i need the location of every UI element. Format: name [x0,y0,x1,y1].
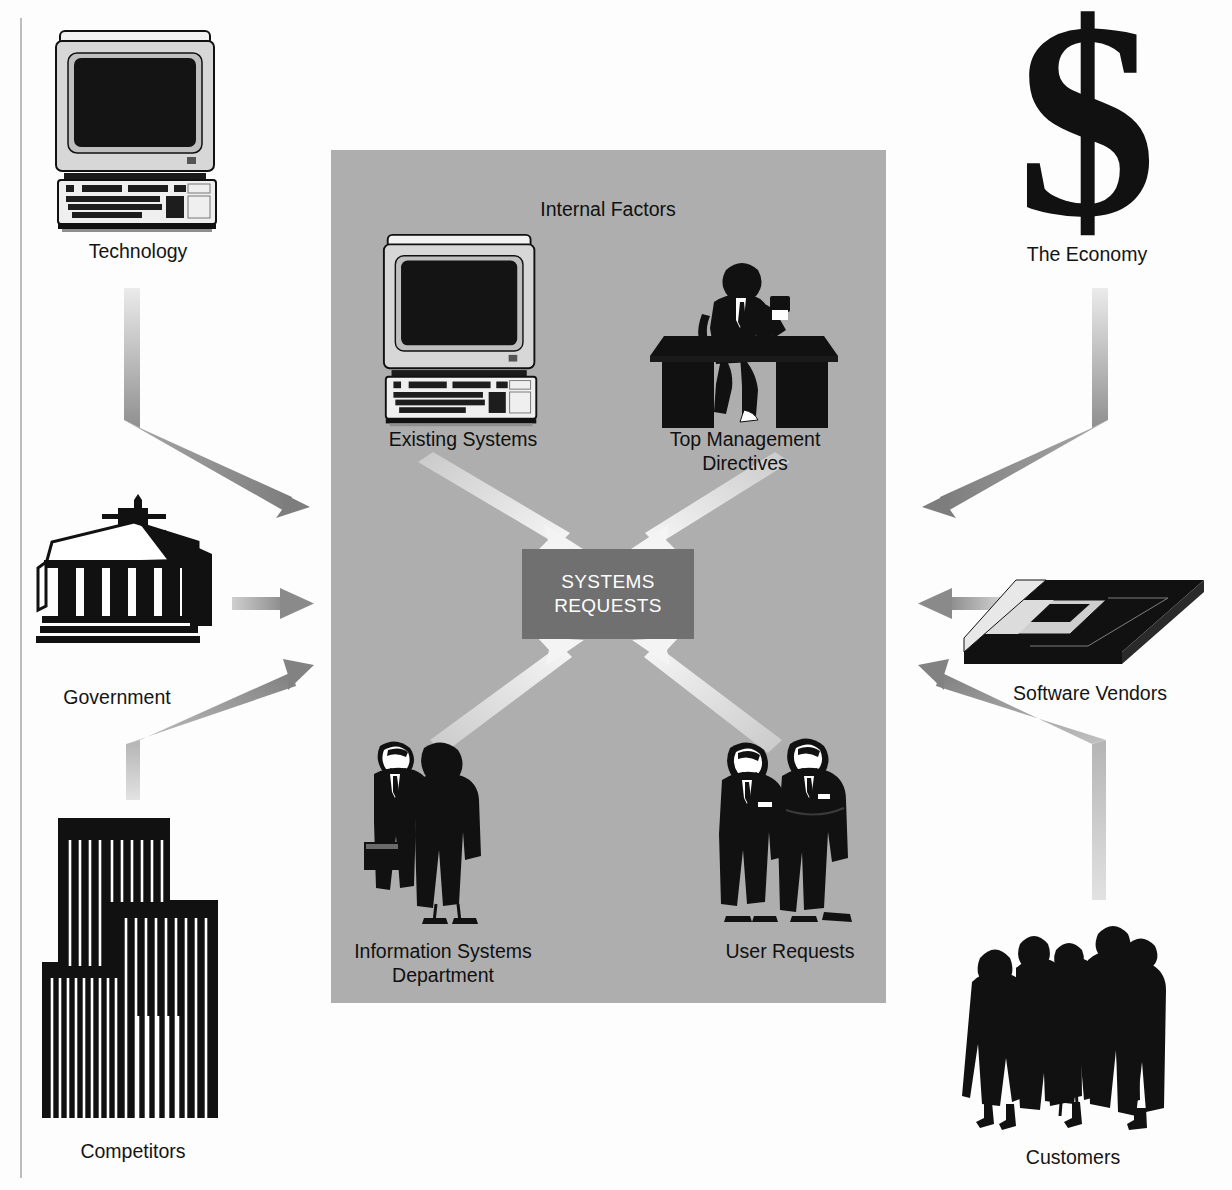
arrow-technology [124,288,310,518]
label-top-management-directives: Top Management Directives [640,428,850,476]
label-government: Government [22,686,212,710]
customers-crowd-icon [958,910,1168,1142]
label-the-economy: The Economy [985,243,1189,267]
is-department-people-icon [362,740,512,926]
technology-computer-icon [46,28,230,238]
label-technology: Technology [36,240,240,264]
user-requests-people-icon [708,740,868,926]
label-internal-factors: Internal Factors [508,198,708,222]
label-customers: Customers [978,1146,1168,1170]
economy-dollar-sign-icon: $ [1012,18,1162,246]
systems-requests-line-1: SYSTEMS [561,570,655,594]
existing-systems-computer-icon [370,232,554,432]
label-competitors: Competitors [38,1140,228,1164]
arrow-competitors [126,659,314,800]
systems-requests-line-2: REQUESTS [554,594,662,618]
competitors-skyline-icon [40,818,240,1118]
government-capitol-icon [22,508,252,644]
systems-requests-box: SYSTEMS REQUESTS [522,549,694,639]
software-vendors-floppy-disk-icon [958,578,1208,688]
top-management-executive-icon [648,258,838,430]
diagram-canvas: SYSTEMS REQUESTS [0,0,1232,1190]
label-software-vendors: Software Vendors [975,682,1205,706]
label-user-requests: User Requests [690,940,890,964]
svg-text:$: $ [1017,0,1157,275]
arrow-the-economy [922,288,1108,518]
label-is-department: Information Systems Department [338,940,548,988]
label-existing-systems: Existing Systems [360,428,566,452]
